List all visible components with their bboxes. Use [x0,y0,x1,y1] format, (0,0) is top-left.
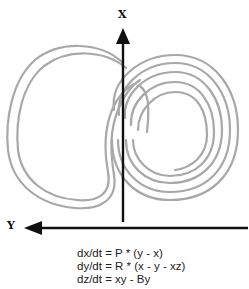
equations-block: dx/dt = P * (y - x) dy/dt = R * (x - y -… [77,247,185,286]
lorenz-attractor-diagram [0,0,249,289]
equation-dz: dz/dt = xy - By [77,273,185,286]
y-axis-label: Y [7,219,15,232]
x-axis [116,28,130,222]
equation-dy: dy/dt = R * (x - y - xz) [77,260,185,273]
right-lobe [112,55,238,200]
y-axis [24,221,248,235]
x-axis-label: X [118,8,127,21]
left-lobe [7,46,140,208]
equation-dx: dx/dt = P * (y - x) [77,247,185,260]
